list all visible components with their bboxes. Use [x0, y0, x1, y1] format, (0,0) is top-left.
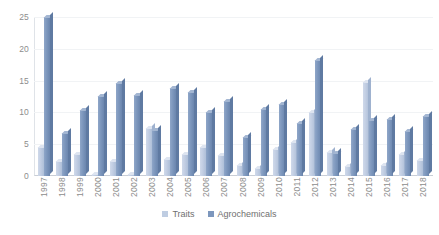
legend-item-agrochemicals[interactable]: Agrochemicals	[208, 209, 277, 219]
x-tick-label: 2001	[111, 177, 121, 197]
bar-side	[140, 90, 143, 174]
x-tick: 2004	[161, 177, 179, 207]
x-tick-label: 2016	[382, 177, 392, 197]
bar-side	[320, 55, 323, 174]
bar-side	[86, 105, 89, 174]
x-tick-label: 2017	[400, 177, 410, 197]
bar-agrochemicals-1997	[44, 17, 50, 176]
x-tick: 2012	[306, 177, 324, 207]
bar-agrochemicals-2003	[152, 130, 158, 176]
bar-group	[89, 17, 107, 176]
x-tick: 2006	[197, 177, 215, 207]
bar-agrochemicals-2004	[170, 88, 176, 176]
x-tick-label: 2015	[364, 177, 374, 197]
bar-group	[360, 17, 378, 176]
x-tick: 2002	[125, 177, 143, 207]
bar-agrochemicals-2013	[333, 153, 339, 176]
bar-agrochemicals-2010	[279, 104, 285, 176]
bar-agrochemicals-2016	[387, 119, 393, 176]
bar-side	[392, 114, 395, 174]
bar-group	[197, 17, 215, 176]
legend-label: Agrochemicals	[218, 209, 277, 219]
x-tick: 1999	[71, 177, 89, 207]
bar-group	[35, 17, 53, 176]
bar-agrochemicals-2011	[297, 123, 303, 176]
bar-side	[122, 79, 125, 174]
bar-group	[414, 17, 432, 176]
bar-side	[302, 118, 305, 174]
x-tick-label: 2018	[418, 177, 428, 197]
x-axis: 1997199819992000200120022003200420052006…	[34, 177, 433, 207]
x-tick: 2015	[360, 177, 378, 207]
bar-side	[374, 116, 377, 174]
legend-item-traits[interactable]: Traits	[162, 209, 194, 219]
bar-agrochemicals-2017	[405, 131, 411, 176]
bar-agrochemicals-2002	[134, 95, 140, 176]
x-tick: 2014	[342, 177, 360, 207]
x-tick-label: 2012	[310, 177, 320, 197]
x-tick-label: 1998	[57, 177, 67, 197]
bar-agrochemicals-2012	[315, 60, 321, 176]
x-tick-label: 2009	[256, 177, 266, 197]
x-tick-label: 2002	[129, 177, 139, 197]
bar-group	[53, 17, 71, 176]
plot-area: 0510152025	[34, 17, 433, 176]
bar-side	[429, 112, 432, 174]
x-tick: 1997	[35, 177, 53, 207]
bar-side	[176, 84, 179, 174]
bar-side	[50, 13, 53, 175]
x-tick: 2003	[143, 177, 161, 207]
x-tick: 2016	[378, 177, 396, 207]
bar-agrochemicals-2014	[351, 129, 357, 176]
x-tick-label: 2000	[93, 177, 103, 197]
x-tick: 2005	[179, 177, 197, 207]
bar-group	[125, 17, 143, 176]
bar-agrochemicals-2009	[261, 109, 267, 176]
bar-group	[288, 17, 306, 176]
y-tick-label: 0	[24, 171, 29, 181]
bar-group	[179, 17, 197, 176]
bar-side	[194, 88, 197, 174]
bar-side	[68, 128, 71, 174]
bar-agrochemicals-2005	[188, 92, 194, 176]
bar-group	[270, 17, 288, 176]
bars-layer	[34, 17, 433, 176]
x-tick: 2001	[107, 177, 125, 207]
bar-agrochemicals-2015	[369, 120, 375, 176]
bar-agrochemicals-2008	[243, 137, 249, 176]
bar-group	[252, 17, 270, 176]
bar-group	[306, 17, 324, 176]
x-tick: 2007	[215, 177, 233, 207]
bar-side	[410, 126, 413, 174]
bar-side	[338, 149, 341, 174]
bar-side	[284, 100, 287, 174]
x-tick: 2000	[89, 177, 107, 207]
legend-swatch-agrochemicals	[208, 211, 214, 217]
x-tick-label: 2014	[346, 177, 356, 197]
bar-side	[266, 104, 269, 174]
x-tick-label: 2011	[292, 177, 302, 196]
bar-group	[324, 17, 342, 176]
y-tick-label: 5	[24, 139, 29, 149]
bar-side	[104, 91, 107, 174]
x-tick-label: 2006	[201, 177, 211, 197]
x-tick: 2010	[270, 177, 288, 207]
bar-group	[234, 17, 252, 176]
bar-group	[396, 17, 414, 176]
x-tick-label: 1999	[75, 177, 85, 197]
bar-group	[71, 17, 89, 176]
bar-side	[212, 108, 215, 174]
bar-group	[143, 17, 161, 176]
x-tick-label: 2008	[238, 177, 248, 197]
legend-label: Traits	[172, 209, 194, 219]
bar-agrochemicals-2007	[224, 101, 230, 176]
x-tick: 1998	[53, 177, 71, 207]
bar-agrochemicals-2018	[423, 116, 429, 176]
legend-swatch-traits	[162, 211, 168, 217]
x-tick-label: 2010	[274, 177, 284, 197]
y-tick-label: 15	[19, 76, 29, 86]
x-tick: 2013	[324, 177, 342, 207]
bar-group	[342, 17, 360, 176]
bar-agrochemicals-1998	[62, 133, 68, 176]
bar-side	[356, 124, 359, 174]
